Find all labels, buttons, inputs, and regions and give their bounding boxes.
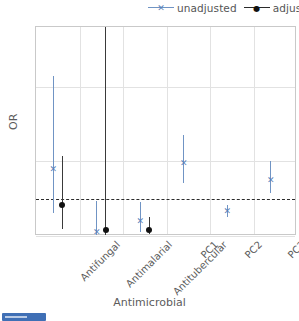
data-point[interactable]: ✕ [49,164,57,173]
legend-swatch-unadjusted: ✕ [148,3,174,13]
gridline-vertical [254,27,255,234]
gridline-horizontal [36,236,295,237]
gridline-horizontal [36,87,295,88]
legend-item-unadjusted[interactable]: ✕ unadjusted [148,2,237,14]
data-point[interactable]: ✕ [93,227,101,236]
x-marker-icon: ✕ [157,4,165,13]
x-tick-label: Antitubercular [171,239,229,297]
taskbar-chip[interactable] [2,313,46,321]
gridline-horizontal [36,161,295,162]
gridline-vertical [80,27,81,234]
gridline-vertical [210,27,211,234]
data-point[interactable] [103,227,109,233]
y-axis-label: OR [7,114,20,130]
error-bar [53,76,54,213]
data-point[interactable]: ✕ [223,207,231,216]
legend-label-adjusted: adjusted [273,2,299,14]
x-tick-label: Antifungal [78,239,122,283]
data-point[interactable]: ✕ [267,176,275,185]
data-point[interactable]: ✕ [136,217,144,226]
reference-line-or-1 [36,199,295,200]
data-point[interactable] [59,202,65,208]
chart-legend: ✕ unadjusted ● adjusted [148,1,299,15]
error-bar [105,27,106,235]
x-tick-label: PC3 [286,239,299,260]
legend-swatch-adjusted: ● [244,3,270,13]
dot-marker-icon: ● [253,4,260,13]
figure: ✕ unadjusted ● adjusted ✕✕✕✕✕✕ 024 OR An… [0,0,299,321]
gridline-vertical [167,27,168,234]
x-tick-label: PC2 [242,239,263,260]
plot-area: ✕✕✕✕✕✕ [35,26,296,235]
x-axis-label: Antimicrobial [0,296,299,309]
error-bar [62,156,63,229]
x-tick-label: Antimalarial [124,239,175,290]
legend-item-adjusted[interactable]: ● adjusted [244,2,299,14]
data-point[interactable]: ✕ [180,159,188,168]
gridline-vertical [123,27,124,234]
legend-label-unadjusted: unadjusted [177,2,237,14]
data-point[interactable] [146,227,152,233]
